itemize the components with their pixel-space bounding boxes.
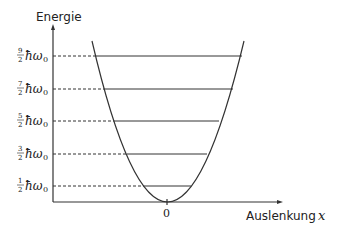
axes (51, 24, 283, 205)
origin-label: 0 (163, 207, 170, 220)
x-axis-arrow (277, 200, 283, 204)
svg-text:0: 0 (43, 55, 48, 64)
svg-text:2: 2 (18, 121, 22, 129)
harmonic-oscillator-diagram: Energie Auslenkung x 0 9 2 ħω 0 7 2 ħω 0… (0, 0, 337, 231)
label-3-2: 3 2 ħω 0 (17, 145, 48, 162)
label-5-2: 5 2 ħω 0 (17, 112, 48, 129)
svg-text:5: 5 (18, 112, 22, 120)
label-1-2: 1 2 ħω 0 (17, 177, 48, 194)
label-9-2: 9 2 ħω 0 (17, 47, 48, 64)
energy-levels (53, 56, 242, 186)
svg-text:0: 0 (43, 185, 48, 194)
svg-text:2: 2 (18, 56, 22, 64)
svg-text:ħω: ħω (25, 147, 43, 161)
svg-text:0: 0 (43, 88, 48, 97)
y-axis-label: Energie (36, 10, 82, 24)
label-7-2: 7 2 ħω 0 (17, 80, 48, 97)
svg-text:2: 2 (18, 89, 22, 97)
svg-text:2: 2 (18, 186, 22, 194)
energy-labels: 9 2 ħω 0 7 2 ħω 0 5 2 ħω 0 3 2 ħω 0 (17, 47, 48, 194)
svg-text:1: 1 (18, 177, 22, 185)
svg-text:9: 9 (18, 47, 22, 55)
x-axis-var: x (318, 208, 326, 223)
svg-text:ħω: ħω (25, 49, 43, 63)
svg-text:7: 7 (18, 80, 22, 88)
x-axis-label: Auslenkung (246, 209, 316, 223)
svg-text:ħω: ħω (25, 82, 43, 96)
y-axis-arrow (51, 24, 55, 30)
svg-text:3: 3 (18, 145, 22, 153)
svg-text:ħω: ħω (25, 114, 43, 128)
svg-text:2: 2 (18, 154, 22, 162)
svg-text:0: 0 (43, 120, 48, 129)
svg-text:ħω: ħω (25, 179, 43, 193)
svg-text:0: 0 (43, 153, 48, 162)
